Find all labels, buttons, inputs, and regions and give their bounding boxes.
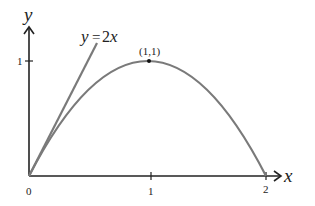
tangent-label-y: y — [79, 27, 89, 46]
x-axis-label: x — [283, 165, 293, 186]
vertex-label: (1,1) — [139, 45, 160, 58]
parabola-curve — [29, 61, 266, 176]
x-tick-label-0: 0 — [26, 185, 32, 197]
x-tick-label-2: 2 — [263, 183, 269, 195]
y-axis-label: y — [22, 4, 33, 25]
plot-canvas: (1,1) y x 0 1 2 1 y = 2 x — [0, 0, 315, 206]
tangent-label-eq: = — [92, 29, 100, 45]
x-tick-label-1: 1 — [148, 185, 154, 197]
tangent-label-x: x — [109, 27, 118, 46]
tangent-label-2: 2 — [102, 28, 110, 45]
vertex-point — [147, 59, 151, 63]
y-tick-label-1: 1 — [17, 55, 23, 67]
